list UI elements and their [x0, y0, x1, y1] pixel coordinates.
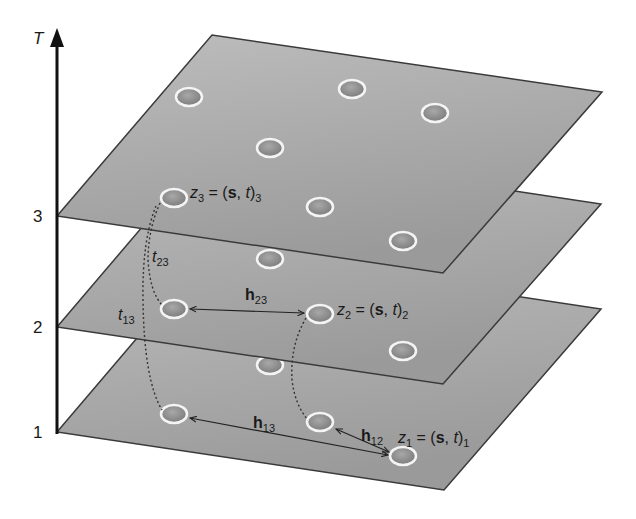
point — [307, 198, 333, 216]
point — [390, 232, 416, 250]
tick-label-2: 2 — [33, 318, 42, 337]
point — [257, 139, 283, 157]
point-z3 — [161, 189, 187, 207]
point — [390, 342, 416, 360]
time-axis: T 3 2 1 — [33, 28, 64, 442]
point-z2 — [307, 305, 333, 323]
point — [422, 104, 448, 122]
axis-label: T — [33, 29, 45, 48]
point — [161, 405, 187, 423]
tick-label-1: 1 — [33, 423, 42, 442]
spatio-temporal-diagram: T 3 2 1 z3 = (s, t)3 z2 = (s, t)2 z1 = (… — [0, 0, 636, 519]
point — [257, 250, 283, 268]
point — [307, 413, 333, 431]
tick-label-3: 3 — [33, 207, 42, 226]
axis-arrow-icon — [50, 28, 64, 47]
point — [339, 80, 365, 98]
point — [161, 300, 187, 318]
point — [176, 88, 202, 106]
point-z1 — [390, 447, 416, 465]
